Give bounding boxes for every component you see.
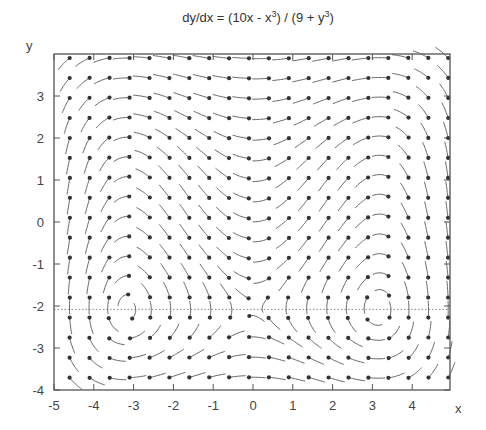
field-segment [388, 373, 404, 378]
field-segment [333, 98, 349, 104]
field-dot [167, 76, 171, 80]
field-dot [127, 234, 131, 238]
field-segment [137, 247, 150, 257]
field-segment [86, 258, 90, 274]
x-axis-label: x [455, 401, 462, 416]
field-segment [249, 357, 266, 358]
field-dot [307, 375, 311, 379]
field-dot [68, 196, 72, 200]
field-segment [114, 256, 129, 262]
field-segment [401, 243, 408, 258]
field-dot [247, 156, 251, 160]
field-segment [446, 261, 448, 278]
field-segment [373, 254, 389, 257]
field-segment [114, 197, 129, 203]
field-dot [426, 156, 430, 160]
field-segment [198, 185, 209, 198]
field-segment [209, 374, 225, 378]
field-dot [148, 235, 152, 239]
field-dot [267, 96, 271, 100]
field-dot [307, 116, 311, 120]
field-segment [274, 138, 289, 145]
field-dot [187, 276, 191, 280]
field-segment [189, 373, 205, 378]
field-dot [88, 376, 92, 380]
field-dot [327, 176, 331, 180]
field-dot [126, 292, 130, 296]
field-dot [287, 196, 291, 200]
field-segment [173, 74, 189, 78]
field-dot [407, 316, 411, 320]
field-dot [207, 236, 211, 240]
field-segment [319, 178, 329, 191]
field-dot [107, 275, 111, 279]
field-segment [327, 298, 328, 315]
field-dot [247, 355, 251, 359]
field-dot [68, 116, 72, 120]
field-dot [167, 96, 171, 100]
field-segment [169, 372, 185, 377]
field-dot [267, 276, 271, 280]
field-segment [421, 123, 429, 138]
field-segment [113, 137, 129, 141]
field-dot [327, 76, 331, 80]
field-dot [227, 236, 231, 240]
field-dot [307, 236, 311, 240]
field-dot [387, 336, 391, 340]
field-segment [279, 278, 289, 292]
field-dot [366, 175, 370, 179]
field-segment [90, 318, 94, 334]
field-segment [249, 337, 266, 339]
field-dot [107, 176, 111, 180]
field-dot [406, 116, 410, 120]
field-dot [88, 156, 92, 160]
field-dot [227, 196, 231, 200]
field-segment [295, 138, 309, 148]
field-dot [366, 155, 370, 159]
field-dot [148, 356, 152, 360]
field-segment [392, 73, 408, 77]
field-dot [426, 316, 430, 320]
field-segment [446, 201, 448, 218]
field-segment [309, 338, 322, 349]
field-segment [64, 118, 70, 134]
field-dot [386, 376, 390, 380]
field-segment [195, 129, 209, 138]
field-dot [148, 336, 152, 340]
field-segment [130, 331, 145, 338]
field-dot [326, 336, 330, 340]
field-segment [269, 357, 285, 361]
field-dot [227, 136, 231, 140]
field-segment [180, 204, 190, 218]
field-dot [88, 296, 92, 300]
field-dot [68, 316, 72, 320]
field-dot [88, 236, 92, 240]
field-dot [148, 175, 152, 179]
field-segment [90, 378, 105, 385]
field-segment [448, 362, 455, 377]
field-segment [253, 238, 269, 242]
field-dot [386, 56, 390, 60]
field-dot [346, 116, 350, 120]
field-dot [107, 196, 111, 200]
field-dot [207, 156, 211, 160]
x-tick-label: -2 [168, 398, 180, 413]
x-tick-label: 0 [249, 398, 256, 413]
field-segment [353, 138, 368, 145]
field-dot [247, 314, 251, 318]
field-segment [216, 187, 229, 198]
field-dot [266, 296, 270, 300]
y-tick-label: -1 [32, 257, 44, 272]
field-segment [442, 103, 449, 118]
field-segment [232, 97, 249, 99]
field-segment [262, 298, 268, 313]
field-segment [101, 178, 110, 192]
field-dot [287, 136, 291, 140]
field-segment [214, 131, 229, 138]
field-segment [312, 58, 328, 61]
field-dot [267, 335, 271, 339]
field-segment [349, 378, 365, 381]
field-dot [108, 76, 112, 80]
field-dot [346, 356, 350, 360]
field-dot [426, 256, 430, 260]
